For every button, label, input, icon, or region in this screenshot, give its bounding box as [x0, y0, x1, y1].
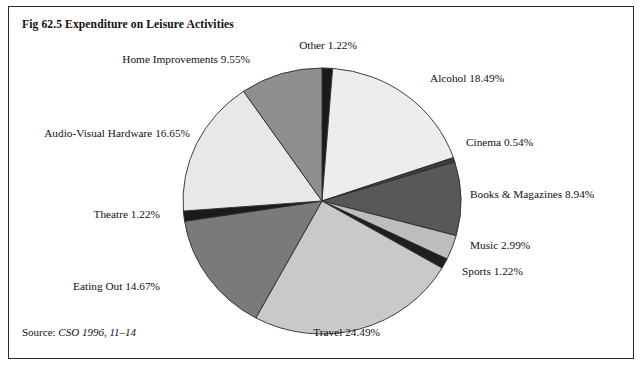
pie-label-other: Other 1.22%: [258, 40, 398, 51]
source-label: Source:: [22, 326, 56, 338]
pie-label-travel: Travel 24.49%: [200, 327, 380, 338]
pie-label-cinema: Cinema 0.54%: [466, 137, 533, 148]
pie-label-eating-out: Eating Out 14.67%: [10, 281, 160, 292]
pie-slice-group: [183, 68, 461, 334]
figure-page: Fig 62.5 Expenditure on Leisure Activiti…: [0, 0, 642, 371]
source-note: Source: CSO 1996, 11–14: [22, 326, 136, 338]
source-value: CSO 1996, 11–14: [58, 326, 136, 338]
pie-label-home-improvements: Home Improvements 9.55%: [60, 54, 250, 65]
pie-label-sports: Sports 1.22%: [462, 266, 523, 277]
pie-label-music: Music 2.99%: [470, 240, 530, 251]
pie-label-books-magazines: Books & Magazines 8.94%: [470, 189, 594, 200]
pie-label-audio-visual-hardware: Audio-Visual Hardware 16.65%: [8, 128, 190, 139]
pie-chart: Other 1.22% Alcohol 18.49% Cinema 0.54% …: [0, 0, 642, 371]
pie-label-theatre: Theatre 1.22%: [10, 209, 160, 220]
pie-label-alcohol: Alcohol 18.49%: [430, 73, 504, 84]
